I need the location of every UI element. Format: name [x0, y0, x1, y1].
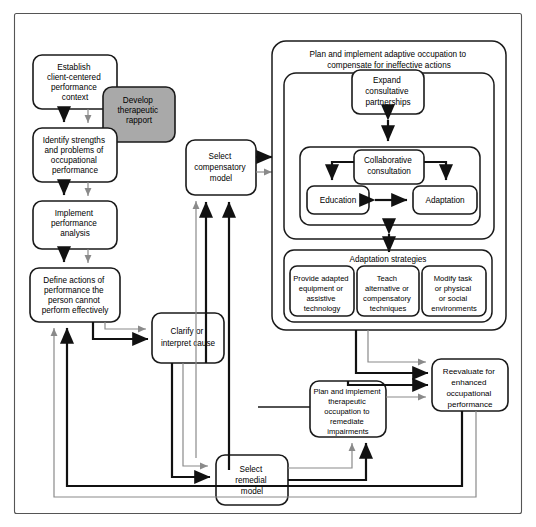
arrow-consultation-to-adaptation: [424, 162, 446, 180]
box-remediate-impairments: Plan and implement therapeutic occupatio…: [310, 381, 386, 437]
svg-text:Identify strengths and p: Identify strengths and problems of occup…: [43, 136, 108, 175]
arrow-consultation-to-education: [332, 162, 354, 180]
box-establish-context: Establish client-centered performance co…: [0, 0, 117, 109]
adaptation-label: Adaptation: [425, 196, 465, 205]
box-teach-alternative: Teach alternative or compensatory techni…: [357, 266, 419, 316]
box-reevaluate-performance: Reevaluate for enhanced occupational per…: [432, 359, 508, 411]
arrow-adaptive-to-reevaluate: [356, 330, 428, 373]
arrow-adaptive-to-reevaluate-secondary: [368, 330, 426, 362]
arrow-define-to-clarify: [93, 322, 148, 339]
arrow-clarify-to-remedial: [172, 363, 210, 477]
group-adaptation-strategies: Adaptation strategies Provide adapted eq…: [284, 250, 492, 322]
box-adaptation: Adaptation: [413, 186, 477, 214]
box-expand-partnerships: Expand consultative partnerships: [352, 70, 424, 114]
box-implement-analysis: Implement performance analysis: [33, 201, 117, 249]
education-label: Education: [320, 196, 357, 205]
svg-text:Define actions of perfor: Define actions of performance the person…: [42, 276, 110, 315]
box-select-compensatory: Select compensatory model: [186, 140, 256, 195]
box-provide-adapted-equipment: Provide adapted equipment or assistive t…: [290, 266, 354, 316]
arrow-remedial-to-remediate: [288, 443, 366, 480]
box-modify-task: Modify task or physical or social enviro…: [422, 266, 486, 316]
box-collaborative-consultation: Collaborative consultation: [354, 150, 424, 184]
box-clarify-cause: Clarify or interpret cause: [152, 313, 224, 363]
arrow-define-to-clarify-secondary: [105, 322, 146, 329]
arrow-remedial-to-remediate-secondary: [288, 443, 352, 468]
adaptation-strategies-header: Adaptation strategies: [350, 255, 427, 264]
box-education: Education: [307, 186, 369, 214]
box-identify-strengths: Identify strengths and problems of occup…: [33, 128, 117, 182]
group-adaptive-occupation: Plan and implement adaptive occupation t…: [272, 41, 506, 330]
box-define-actions: Define actions of performance the person…: [30, 268, 120, 322]
adaptive-group-header: Plan and implement adaptive occupation t…: [310, 50, 469, 70]
flowchart-diagram: Establish client-centered performance co…: [0, 0, 536, 527]
